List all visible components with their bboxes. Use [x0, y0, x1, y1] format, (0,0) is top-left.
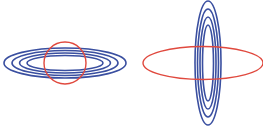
contour-ellipse — [195, 1, 221, 125]
contour-ellipse — [27, 56, 103, 71]
left-panel — [4, 42, 126, 84]
contour-ellipse — [12, 51, 118, 76]
contour-ellipse — [203, 25, 214, 101]
right-panel — [143, 1, 263, 125]
contour-diagram — [0, 0, 263, 126]
